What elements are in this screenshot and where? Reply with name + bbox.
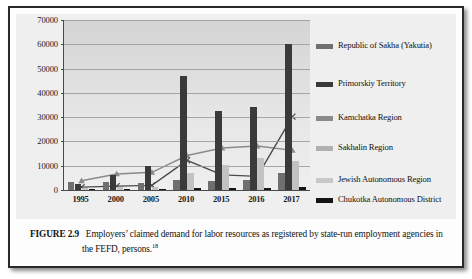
grid-line bbox=[64, 166, 310, 167]
grid-line bbox=[64, 117, 310, 118]
bar-chukotka-autonomous-district-2000 bbox=[124, 189, 131, 190]
grid-line bbox=[64, 44, 310, 45]
bar-primorskiy-territory-2000 bbox=[110, 175, 117, 190]
chart-legend: Republic of Sakha (Yakutia)Primorskiy Te… bbox=[316, 18, 456, 214]
grid-line bbox=[64, 69, 310, 70]
y-axis-tick-label: 0 bbox=[14, 186, 58, 194]
bar-republic-of-sakha-yakutia-2016 bbox=[243, 180, 250, 190]
bar-primorskiy-territory-2015 bbox=[215, 111, 222, 190]
figure-label: FIGURE 2.9 bbox=[30, 229, 79, 239]
bar-chukotka-autonomous-district-1995 bbox=[89, 189, 96, 190]
y-axis-tick-label: 70000 bbox=[14, 16, 58, 24]
chart-area: 700006000050000400003000020000100000 199… bbox=[16, 14, 456, 219]
line-series-overlay bbox=[64, 20, 310, 190]
legend-item-label: Primorskiy Territory bbox=[338, 78, 456, 88]
figure-footnote-marker: 18 bbox=[152, 242, 158, 249]
bar-republic-of-sakha-yakutia-2015 bbox=[208, 181, 215, 190]
bar-jewish-autonomous-region-2017 bbox=[292, 161, 299, 190]
x-axis-tick-label-1995: 1995 bbox=[61, 194, 101, 204]
legend-swatch-icon bbox=[316, 198, 333, 203]
bar-chukotka-autonomous-district-2005 bbox=[159, 189, 166, 190]
legend-item-label: Republic of Sakha (Yakutia) bbox=[338, 40, 456, 50]
y-axis-tick-label: 40000 bbox=[14, 89, 58, 97]
bar-republic-of-sakha-yakutia-1995 bbox=[68, 182, 75, 190]
y-axis-tick-mark bbox=[61, 166, 64, 167]
y-axis-tick-mark bbox=[61, 93, 64, 94]
y-axis: 700006000050000400003000020000100000 bbox=[16, 14, 62, 194]
bar-jewish-autonomous-region-2015 bbox=[222, 165, 229, 190]
figure-caption-text: Employers’ claimed demand for labor reso… bbox=[82, 229, 443, 254]
bar-primorskiy-territory-1995 bbox=[75, 184, 82, 190]
legend-item-label: Jewish Autonomous Region bbox=[338, 174, 456, 184]
bar-chukotka-autonomous-district-2016 bbox=[264, 188, 271, 190]
x-axis-tick-label-2000: 2000 bbox=[96, 194, 136, 204]
figure-page: 700006000050000400003000020000100000 199… bbox=[0, 0, 472, 279]
y-axis-tick-mark bbox=[61, 141, 64, 142]
grid-line bbox=[64, 141, 310, 142]
x-axis: 1995200020052010201520162017 bbox=[63, 194, 309, 210]
legend-item-label: Kamchatka Region bbox=[338, 112, 456, 122]
legend-item-label: Sakhalin Region bbox=[338, 142, 456, 152]
grid-line bbox=[64, 20, 310, 21]
y-axis-tick-mark bbox=[61, 190, 64, 191]
grid-line bbox=[64, 93, 310, 94]
y-axis-tick-mark bbox=[61, 20, 64, 21]
legend-item-label: Chukotka Autonomous District bbox=[338, 194, 456, 204]
plot-area bbox=[63, 20, 310, 191]
legend-swatch-icon bbox=[316, 178, 333, 183]
x-axis-tick-label-2010: 2010 bbox=[166, 194, 206, 204]
bar-republic-of-sakha-yakutia-2017 bbox=[278, 173, 285, 190]
bar-republic-of-sakha-yakutia-2010 bbox=[173, 180, 180, 190]
bar-jewish-autonomous-region-1995 bbox=[82, 188, 89, 190]
x-axis-tick-label-2005: 2005 bbox=[131, 194, 171, 204]
y-axis-tick-label: 10000 bbox=[14, 162, 58, 170]
y-axis-tick-label: 60000 bbox=[14, 40, 58, 48]
bar-republic-of-sakha-yakutia-2000 bbox=[103, 182, 110, 190]
bar-chukotka-autonomous-district-2015 bbox=[229, 188, 236, 190]
y-axis-tick-label: 30000 bbox=[14, 113, 58, 121]
marker-triangle-icon bbox=[78, 178, 84, 184]
y-axis-tick-mark bbox=[61, 44, 64, 45]
y-axis-tick-label: 20000 bbox=[14, 137, 58, 145]
y-axis-tick-mark bbox=[61, 117, 64, 118]
figure-inner: 700006000050000400003000020000100000 199… bbox=[12, 10, 460, 264]
bar-primorskiy-territory-2017 bbox=[285, 44, 292, 190]
legend-swatch-icon bbox=[316, 146, 333, 151]
bar-jewish-autonomous-region-2016 bbox=[257, 158, 264, 190]
bar-chukotka-autonomous-district-2010 bbox=[194, 188, 201, 190]
x-axis-tick-label-2015: 2015 bbox=[201, 194, 241, 204]
bar-jewish-autonomous-region-2000 bbox=[117, 187, 124, 190]
legend-swatch-icon bbox=[316, 44, 333, 49]
x-axis-tick-label-2017: 2017 bbox=[271, 194, 311, 204]
bar-republic-of-sakha-yakutia-2005 bbox=[138, 183, 145, 190]
y-axis-tick-label: 50000 bbox=[14, 65, 58, 73]
legend-swatch-icon bbox=[316, 116, 333, 121]
bar-primorskiy-territory-2016 bbox=[250, 107, 257, 190]
bar-chukotka-autonomous-district-2017 bbox=[299, 187, 306, 190]
x-axis-tick-label-2016: 2016 bbox=[236, 194, 276, 204]
figure-caption: FIGURE 2.9 Employers’ claimed demand for… bbox=[30, 228, 446, 256]
legend-swatch-icon bbox=[316, 82, 333, 87]
bar-primorskiy-territory-2010 bbox=[180, 76, 187, 190]
y-axis-tick-mark bbox=[61, 69, 64, 70]
bar-primorskiy-territory-2005 bbox=[145, 166, 152, 190]
bar-jewish-autonomous-region-2005 bbox=[152, 187, 159, 190]
figure-frame: 700006000050000400003000020000100000 199… bbox=[8, 6, 464, 268]
bar-jewish-autonomous-region-2010 bbox=[187, 173, 194, 190]
